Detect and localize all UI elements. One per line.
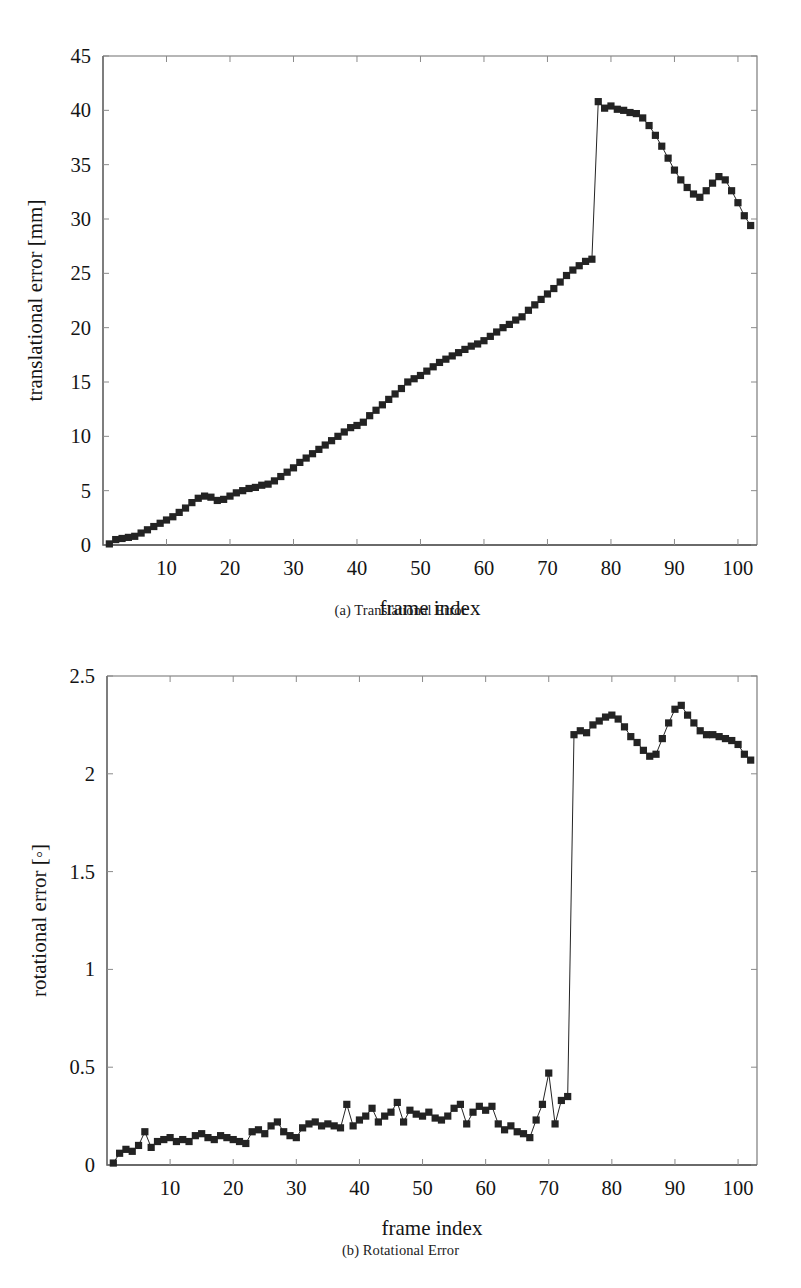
series-line <box>109 102 750 544</box>
data-point-marker <box>703 187 710 194</box>
data-point-marker <box>583 729 590 736</box>
data-point-marker <box>385 396 392 403</box>
data-point-marker <box>569 266 576 273</box>
chart-panel-translational-error: 102030405060708090100051015202530354045f… <box>0 0 801 648</box>
data-point-marker <box>413 1111 420 1118</box>
data-point-marker <box>406 1107 413 1114</box>
data-point-marker <box>577 727 584 734</box>
data-point-marker <box>538 296 545 303</box>
data-point-marker <box>684 184 691 191</box>
data-point-marker <box>411 375 418 382</box>
y-tick-label: 25 <box>71 262 92 284</box>
data-point-marker <box>419 1113 426 1120</box>
data-point-marker <box>233 489 240 496</box>
y-tick-label: 10 <box>71 425 92 447</box>
data-point-marker <box>741 212 748 219</box>
data-point-marker <box>230 1136 237 1143</box>
data-point-marker <box>501 1126 508 1133</box>
x-tick-label: 70 <box>538 1177 559 1199</box>
data-point-marker <box>709 180 716 187</box>
x-tick-label: 70 <box>537 557 558 579</box>
data-point-marker <box>696 194 703 201</box>
data-point-marker <box>350 1122 357 1129</box>
data-point-marker <box>627 733 634 740</box>
data-point-marker <box>455 349 462 356</box>
data-point-marker <box>141 1128 148 1135</box>
data-point-marker <box>129 1148 136 1155</box>
data-point-marker <box>551 1120 558 1127</box>
data-point-marker <box>249 1128 256 1135</box>
data-point-marker <box>131 533 138 540</box>
data-point-marker <box>106 540 113 547</box>
data-point-marker <box>391 390 398 397</box>
y-tick-label: 45 <box>71 45 92 67</box>
data-point-marker <box>112 536 119 543</box>
data-point-marker <box>677 176 684 183</box>
data-point-marker <box>563 272 570 279</box>
data-point-marker <box>499 324 506 331</box>
data-point-marker <box>303 454 310 461</box>
y-tick-label: 2 <box>85 763 95 785</box>
data-point-marker <box>589 721 596 728</box>
x-tick-label: 100 <box>723 557 754 579</box>
data-point-marker <box>150 523 157 530</box>
data-point-marker <box>595 98 602 105</box>
data-point-marker <box>309 450 316 457</box>
chart-panel-rotational-error: 10203040506070809010000.511.522.5frame i… <box>0 640 801 1288</box>
data-point-marker <box>457 1101 464 1108</box>
data-point-marker <box>220 496 227 503</box>
y-tick-label: 2.5 <box>69 665 95 687</box>
data-point-marker <box>318 1122 325 1129</box>
x-tick-label: 20 <box>220 557 241 579</box>
data-point-marker <box>341 428 348 435</box>
data-point-marker <box>658 143 665 150</box>
data-point-marker <box>207 494 214 501</box>
data-point-marker <box>322 441 329 448</box>
data-point-marker <box>255 1126 262 1133</box>
data-point-marker <box>138 529 145 536</box>
data-point-marker <box>506 321 513 328</box>
x-tick-label: 20 <box>223 1177 244 1199</box>
data-point-marker <box>518 313 525 320</box>
data-point-marker <box>601 105 608 112</box>
data-point-marker <box>372 407 379 414</box>
data-point-marker <box>690 190 697 197</box>
data-point-marker <box>493 328 500 335</box>
data-point-marker <box>343 1101 350 1108</box>
data-point-marker <box>442 356 449 363</box>
data-point-marker <box>570 731 577 738</box>
data-point-marker <box>728 187 735 194</box>
data-point-marker <box>296 459 303 466</box>
data-point-marker <box>678 702 685 709</box>
data-point-marker <box>645 122 652 129</box>
data-point-marker <box>305 1120 312 1127</box>
data-point-marker <box>488 1103 495 1110</box>
data-point-marker <box>167 1134 174 1141</box>
data-point-marker <box>438 1116 445 1123</box>
x-tick-label: 80 <box>602 1177 623 1199</box>
y-tick-label: 15 <box>71 371 92 393</box>
x-tick-label: 90 <box>665 1177 686 1199</box>
data-point-marker <box>299 1124 306 1131</box>
data-point-marker <box>366 412 373 419</box>
data-point-marker <box>596 717 603 724</box>
data-point-marker <box>379 401 386 408</box>
data-point-marker <box>400 1118 407 1125</box>
data-point-marker <box>463 1120 470 1127</box>
data-point-marker <box>621 723 628 730</box>
translational-error-plot: 102030405060708090100051015202530354045f… <box>0 0 801 648</box>
data-point-marker <box>531 301 538 308</box>
data-point-marker <box>512 316 519 323</box>
data-point-marker <box>179 1136 186 1143</box>
data-point-marker <box>226 493 233 500</box>
data-point-marker <box>734 199 741 206</box>
data-point-marker <box>188 499 195 506</box>
data-point-marker <box>436 359 443 366</box>
y-tick-label: 1 <box>85 958 95 980</box>
data-point-marker <box>640 747 647 754</box>
data-point-marker <box>602 713 609 720</box>
data-point-marker <box>163 516 170 523</box>
data-point-marker <box>741 751 748 758</box>
data-point-marker <box>331 1122 338 1129</box>
y-tick-label: 20 <box>71 317 92 339</box>
